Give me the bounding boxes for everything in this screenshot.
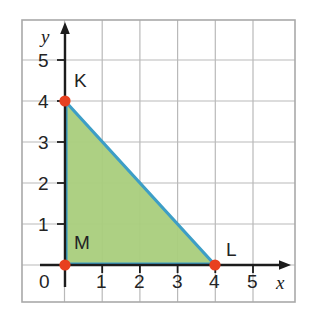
y-tick-label-3: 3 — [38, 133, 49, 152]
vertex-label-k: K — [74, 71, 87, 90]
vertex-point-k — [59, 95, 70, 106]
x-tick-label-1: 1 — [96, 272, 107, 291]
y-tick-label-1: 1 — [38, 215, 49, 234]
vertex-label-l: L — [226, 240, 237, 259]
x-tick-label-3: 3 — [172, 272, 183, 291]
y-tick-label-4: 4 — [38, 92, 49, 111]
y-axis-label: y — [41, 27, 49, 46]
x-tick-label-2: 2 — [134, 272, 145, 291]
vertex-label-m: M — [74, 233, 90, 252]
x-axis-label: x — [276, 273, 284, 292]
coordinate-grid-figure: 5 4 3 2 1 0 1 2 3 4 5 y x K L M — [0, 0, 313, 325]
y-tick-label-5: 5 — [38, 51, 49, 70]
vertex-point-m — [59, 259, 70, 270]
x-tick-label-5: 5 — [247, 272, 258, 291]
y-tick-label-2: 2 — [38, 174, 49, 193]
origin-label: 0 — [39, 272, 50, 291]
x-tick-label-4: 4 — [209, 272, 220, 291]
vertex-point-l — [209, 259, 220, 270]
